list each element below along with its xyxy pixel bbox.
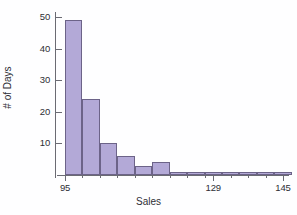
x-tick-95 xyxy=(65,175,66,181)
x-axis-title: Sales xyxy=(0,196,297,207)
histogram-bar xyxy=(187,172,204,175)
histogram-bar xyxy=(117,156,134,175)
x-minor-tick-119 xyxy=(170,175,171,178)
y-tick-label-20: 20 xyxy=(28,106,50,117)
histogram-chart: 1020304050 95129145 # of Days Sales xyxy=(0,0,297,215)
y-tick-10 xyxy=(55,143,62,144)
x-minor-tick-115 xyxy=(152,175,153,178)
x-minor-tick-133 xyxy=(231,175,232,178)
histogram-bar xyxy=(222,172,239,175)
histogram-bar xyxy=(82,99,99,175)
y-tick-label-10: 10 xyxy=(28,137,50,148)
x-tick-label-95: 95 xyxy=(50,182,80,193)
histogram-bar xyxy=(239,172,256,175)
x-axis-line xyxy=(57,175,289,176)
histogram-bar xyxy=(170,172,187,175)
x-tick-label-145: 145 xyxy=(268,182,297,193)
y-axis-line xyxy=(55,12,56,178)
histogram-bar xyxy=(205,172,222,175)
y-tick-40 xyxy=(55,49,62,50)
x-minor-tick-99 xyxy=(82,175,83,178)
y-tick-30 xyxy=(55,80,62,81)
x-minor-tick-107 xyxy=(117,175,118,178)
x-minor-tick-103 xyxy=(100,175,101,178)
y-tick-label-50: 50 xyxy=(28,11,50,22)
histogram-bar xyxy=(135,166,152,175)
y-tick-label-30: 30 xyxy=(28,74,50,85)
histogram-bar xyxy=(100,143,117,175)
x-tick-145 xyxy=(283,175,284,181)
x-minor-tick-137 xyxy=(248,175,249,178)
x-tick-129 xyxy=(213,175,214,181)
y-tick-20 xyxy=(55,112,62,113)
histogram-bar xyxy=(257,172,274,175)
x-minor-tick-127 xyxy=(205,175,206,178)
histogram-bar xyxy=(65,20,82,175)
histogram-bar xyxy=(152,162,169,175)
x-minor-tick-141 xyxy=(266,175,267,178)
y-tick-label-40: 40 xyxy=(28,43,50,54)
x-minor-tick-111 xyxy=(135,175,136,178)
x-tick-label-129: 129 xyxy=(198,182,228,193)
y-axis-title: # of Days xyxy=(2,53,13,123)
x-minor-tick-123 xyxy=(187,175,188,178)
histogram-bar xyxy=(274,172,291,175)
y-tick-50 xyxy=(55,17,62,18)
